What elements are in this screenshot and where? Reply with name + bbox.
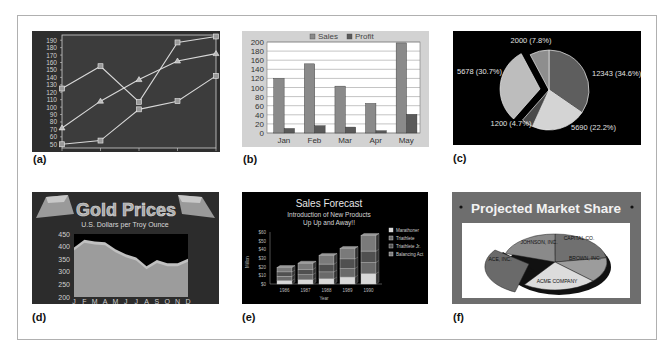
bar-chart-b: 020406080100120140160180200SalesProfitJa… — [242, 31, 429, 147]
svg-text:Profit: Profit — [355, 32, 374, 41]
slice-label: 12343 (34.6%) — [592, 69, 641, 78]
svg-text:$20: $20 — [258, 265, 266, 270]
y-tick-label: 180 — [46, 44, 57, 51]
chart-subtitle: U.S. Dollars per Troy Ounce — [81, 221, 169, 229]
slice-label: CAPITAL CO. — [564, 235, 595, 241]
svg-text:400: 400 — [58, 243, 70, 250]
svg-text:Balancing Act: Balancing Act — [396, 252, 424, 257]
svg-text:300: 300 — [58, 268, 70, 275]
slice-label: ACME COMPANY — [537, 278, 578, 284]
y-tick-label: 160 — [46, 59, 57, 66]
bar — [274, 78, 284, 133]
svg-text:20: 20 — [255, 120, 264, 129]
svg-text:$10: $10 — [258, 273, 266, 278]
caption-e: (e) — [242, 311, 255, 323]
bar — [335, 86, 345, 133]
svg-text:Mar: Mar — [338, 136, 352, 145]
caption-d: (d) — [32, 311, 46, 323]
svg-text:J: J — [124, 298, 128, 304]
slice-label: JOHNSON, INC. — [520, 239, 557, 245]
slice-label: 5678 (30.7%) — [457, 67, 503, 76]
bar — [366, 103, 376, 133]
pie-chart-market-share: Projected Market ShareCAPITAL CO.BROWN, … — [452, 192, 641, 304]
pie-chart-c: 12343 (34.6%)5690 (22.2%)1200 (4.7%)5678… — [453, 31, 641, 145]
y-tick-label: 110 — [47, 96, 58, 103]
svg-text:Introduction of New Products: Introduction of New Products — [287, 211, 371, 218]
chart-title: Gold Prices — [76, 200, 176, 220]
slice-label: 2000 (7.8%) — [511, 36, 552, 45]
svg-text:Triathlete Jr.: Triathlete Jr. — [396, 244, 421, 249]
svg-text:O: O — [165, 298, 171, 304]
chart-title: Projected Market Share — [471, 201, 622, 216]
svg-text:$50: $50 — [258, 239, 266, 244]
svg-text:N: N — [175, 298, 180, 304]
svg-text:Year: Year — [319, 296, 329, 301]
slice-label: 1200 (4.7%) — [491, 119, 532, 128]
bar — [304, 64, 314, 133]
svg-text:Apr: Apr — [369, 136, 382, 145]
svg-text:1990: 1990 — [363, 288, 374, 293]
svg-text:Marathoner: Marathoner — [396, 228, 420, 233]
svg-text:Sales: Sales — [318, 32, 338, 41]
caption-c: (c) — [453, 152, 466, 164]
svg-text:140: 140 — [251, 65, 265, 74]
y-tick-label: 90 — [50, 111, 58, 118]
svg-text:1987: 1987 — [300, 288, 311, 293]
svg-text:120: 120 — [251, 74, 265, 83]
svg-text:$60: $60 — [258, 230, 266, 235]
slice-label: ACE, INC. — [488, 256, 511, 262]
svg-text:1989: 1989 — [342, 288, 353, 293]
y-tick-label: 60 — [50, 133, 58, 140]
svg-text:$30: $30 — [258, 256, 266, 261]
svg-text:Millon: Millon — [245, 256, 250, 268]
svg-text:S: S — [155, 298, 160, 304]
svg-text:450: 450 — [58, 231, 70, 238]
y-tick-label: 50 — [50, 141, 58, 148]
svg-text:Up Up and Away!!: Up Up and Away!! — [303, 219, 355, 227]
line-chart-a: 5060708090100110120130140150160170180190 — [32, 31, 220, 152]
bar — [396, 43, 406, 133]
svg-text:80: 80 — [255, 93, 264, 102]
y-tick-label: 130 — [46, 81, 57, 88]
y-tick-label: 140 — [46, 74, 57, 81]
caption-f: (f) — [453, 311, 464, 323]
svg-text:250: 250 — [58, 281, 70, 288]
bar — [407, 114, 417, 133]
svg-text:1988: 1988 — [321, 288, 332, 293]
svg-text:F: F — [82, 298, 86, 304]
caption-a: (a) — [33, 153, 46, 165]
stacked-bar-chart-sales-forecast: Sales ForecastIntroduction of New Produc… — [242, 192, 428, 304]
svg-text:200: 200 — [58, 294, 70, 301]
svg-text:A: A — [144, 298, 149, 304]
slice-label: BROWN, INC. — [569, 255, 601, 261]
slice-label: 5690 (22.2%) — [571, 123, 617, 132]
svg-text:60: 60 — [255, 102, 264, 111]
svg-text:M: M — [113, 298, 119, 304]
area-chart-gold-prices: Gold PricesU.S. Dollars per Troy Ounce20… — [32, 192, 219, 304]
bar — [315, 126, 325, 133]
bar — [345, 127, 355, 133]
y-tick-label: 100 — [46, 104, 57, 111]
svg-text:100: 100 — [251, 84, 265, 93]
y-tick-label: 150 — [46, 66, 57, 73]
svg-text:Triathlete: Triathlete — [396, 236, 415, 241]
y-tick-label: 170 — [46, 52, 57, 59]
svg-text:350: 350 — [58, 256, 70, 263]
y-tick-label: 190 — [46, 37, 57, 44]
svg-text:1986: 1986 — [279, 288, 290, 293]
svg-text:D: D — [185, 298, 190, 304]
svg-text:$40: $40 — [258, 247, 266, 252]
bar — [376, 131, 386, 133]
y-tick-label: 120 — [46, 89, 57, 96]
svg-text:J: J — [134, 298, 138, 304]
svg-text:180: 180 — [251, 47, 265, 56]
svg-text:M: M — [92, 298, 98, 304]
svg-text:200: 200 — [251, 38, 265, 47]
chart-title: Sales Forecast — [296, 198, 363, 209]
caption-b: (b) — [243, 153, 257, 165]
svg-text:$0: $0 — [261, 282, 267, 287]
svg-text:Jan: Jan — [277, 136, 290, 145]
svg-text:May: May — [399, 136, 414, 145]
bar — [284, 128, 294, 133]
svg-text:40: 40 — [255, 111, 264, 120]
